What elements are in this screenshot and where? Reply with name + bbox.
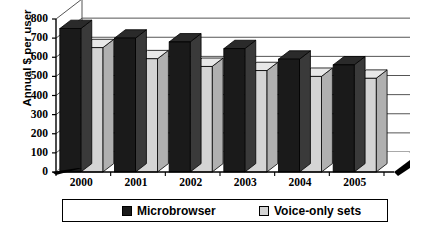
y-axis-tick-label: 800 bbox=[14, 13, 48, 24]
x-axis-tick-label: 2005 bbox=[331, 176, 379, 188]
x-axis-tick-label: 2003 bbox=[221, 176, 269, 188]
bars-group bbox=[60, 20, 387, 172]
legend: Microbrowser Voice-only sets bbox=[62, 199, 388, 222]
x-axis-tick-label: 2000 bbox=[57, 176, 105, 188]
legend-swatch-icon bbox=[259, 206, 269, 216]
y-axis-tick-label: 400 bbox=[14, 90, 48, 101]
legend-entry-voice-only-sets: Voice-only sets bbox=[259, 203, 361, 219]
legend-entry-microbrowser: Microbrowser bbox=[122, 203, 216, 219]
y-axis-tick-label: 500 bbox=[14, 70, 48, 81]
x-axis-tick-label: 2002 bbox=[167, 176, 215, 188]
y-axis-tick-label: 300 bbox=[14, 109, 48, 120]
y-axis-tick-label: 100 bbox=[14, 147, 48, 158]
legend-label: Microbrowser bbox=[137, 204, 216, 218]
y-axis-tick-label: 0 bbox=[14, 166, 48, 177]
legend-swatch-icon bbox=[122, 206, 132, 216]
x-axis-tick-label: 2004 bbox=[276, 176, 324, 188]
y-axis-tick-label: 700 bbox=[14, 32, 48, 43]
y-axis-tick-label: 600 bbox=[14, 51, 48, 62]
chart-container: Annual $ per user 8007006005004003002001… bbox=[0, 0, 438, 234]
legend-label: Voice-only sets bbox=[274, 204, 361, 218]
y-axis-tick-label: 200 bbox=[14, 128, 48, 139]
x-axis-tick-label: 2001 bbox=[112, 176, 160, 188]
